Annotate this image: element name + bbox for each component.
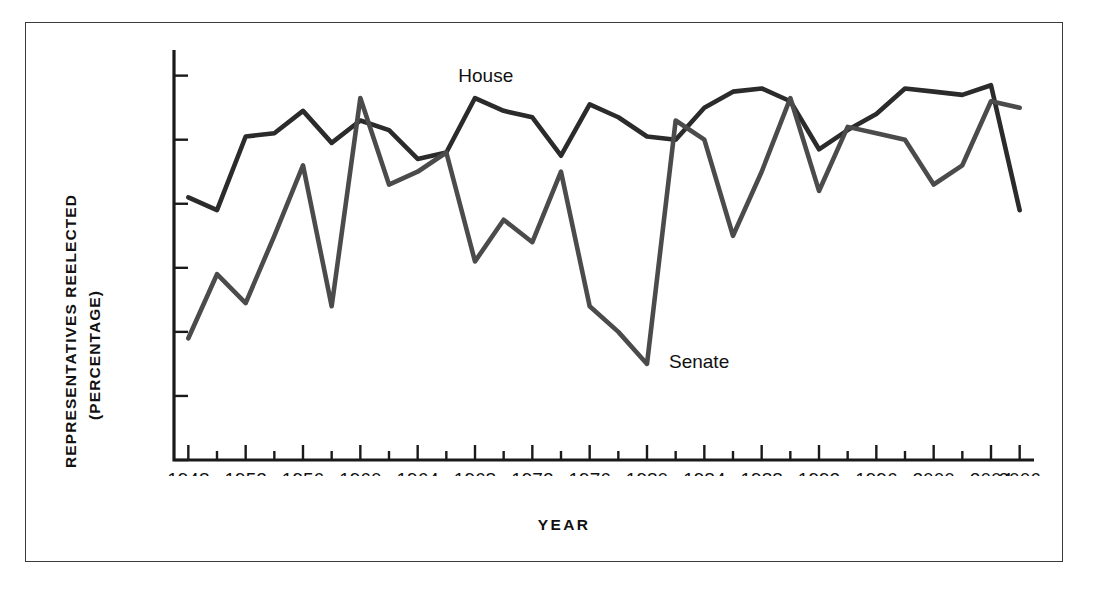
x-tick-label: 1956 <box>282 469 324 476</box>
plot-area: 405060708090100 194819521956196019641968… <box>168 46 1044 476</box>
y-axis-ticks: 405060708090100 <box>168 66 188 471</box>
data-series <box>188 85 1019 364</box>
series-label-senate: Senate <box>669 351 729 372</box>
y-axis-title-line1: REPRESENTATIVES REELECTED <box>62 194 80 468</box>
x-tick-label: 1980 <box>626 469 668 476</box>
x-tick-label: 1948 <box>168 469 209 476</box>
x-tick-label: 1988 <box>741 469 783 476</box>
x-tick-label: 1968 <box>454 469 496 476</box>
figure-container: REPRESENTATIVES REELECTED (PERCENTAGE) 4… <box>0 0 1106 591</box>
x-axis-title-text: YEAR <box>538 516 591 533</box>
y-axis-title: REPRESENTATIVES REELECTED (PERCENTAGE) <box>40 60 100 480</box>
x-tick-label: 1960 <box>339 469 381 476</box>
x-tick-label: 2006 <box>999 469 1041 476</box>
x-tick-label: 2000 <box>913 469 955 476</box>
y-axis-title-line2: (PERCENTAGE) <box>86 290 104 420</box>
series-line-house <box>188 85 1019 210</box>
series-label-house: House <box>458 65 513 86</box>
x-tick-label: 1972 <box>511 469 553 476</box>
x-axis-title: YEAR <box>0 516 1106 534</box>
x-tick-label: 1976 <box>569 469 611 476</box>
x-tick-label: 1964 <box>397 469 440 476</box>
x-tick-label: 1984 <box>683 469 726 476</box>
line-chart: 405060708090100 194819521956196019641968… <box>168 46 1044 476</box>
x-tick-label: 1992 <box>798 469 840 476</box>
series-line-senate <box>188 98 1019 364</box>
x-tick-label: 1996 <box>855 469 897 476</box>
x-tick-label: 1952 <box>225 469 267 476</box>
